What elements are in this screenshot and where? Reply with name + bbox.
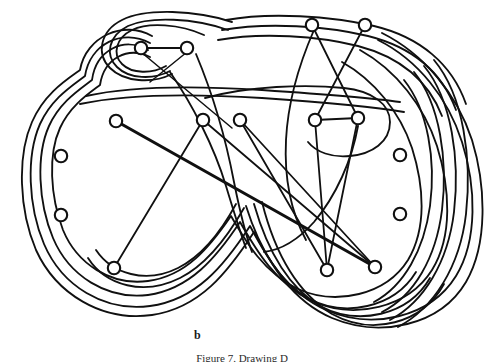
nest-curve-descender-2 <box>196 54 252 252</box>
edge-v6-v14 <box>114 120 203 268</box>
vertex-right-isolated-top[interactable] <box>394 149 406 161</box>
vertex-bottom-right-b[interactable] <box>369 261 381 273</box>
edge-v8-v15 <box>315 120 327 270</box>
vertex-bottom-right-a[interactable] <box>321 264 333 276</box>
vertex-left-isolated-bot[interactable] <box>55 209 67 221</box>
graph-drawing-svg <box>0 0 484 362</box>
vertex-left-isolated-top[interactable] <box>55 150 67 162</box>
nest-curve-3 <box>40 45 447 310</box>
panel-label: b <box>194 328 201 343</box>
vertex-bottom-left[interactable] <box>108 262 120 274</box>
edge-v7-v15 <box>240 120 327 270</box>
edge-v2-crossing-down <box>150 52 187 82</box>
nest-curve-bottom-right-2 <box>254 204 430 316</box>
vertex-top-left-inner-b[interactable] <box>181 42 193 54</box>
figure-caption: Figure 7. Drawing D <box>0 352 484 362</box>
vertex-mid-center-b[interactable] <box>234 114 246 126</box>
vertex-top-right-a[interactable] <box>306 19 318 31</box>
vertex-mid-right-b[interactable] <box>352 112 364 124</box>
nest-curve-bottom-right-1 <box>246 206 416 308</box>
nested-curves-group <box>22 12 483 327</box>
vertex-mid-center-a[interactable] <box>197 114 209 126</box>
nest-curve-right-arc-3 <box>398 60 468 327</box>
vertex-top-right-b[interactable] <box>359 19 371 31</box>
vertex-mid-left-a[interactable] <box>110 115 122 127</box>
edge-v1-crossing-down <box>141 52 232 128</box>
vertex-right-isolated-bot[interactable] <box>394 208 406 220</box>
vertex-mid-right-a[interactable] <box>309 114 321 126</box>
figure-container: b Figure 7. Drawing D <box>0 0 484 362</box>
vertex-top-left-inner-a[interactable] <box>135 42 147 54</box>
nest-curve-outer-1 <box>31 37 473 319</box>
nest-curve-midright-strand-2 <box>286 30 314 240</box>
